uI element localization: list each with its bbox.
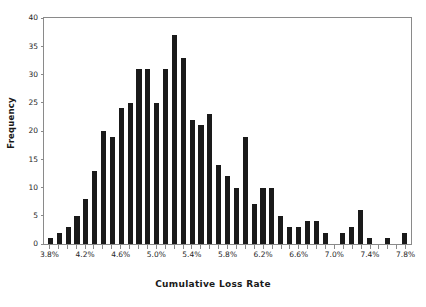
bar-slot (250, 18, 259, 244)
bar-slot (338, 18, 347, 244)
x-axis-tick-mark (58, 245, 59, 249)
histogram-bar (278, 216, 283, 244)
histogram-bar (367, 238, 372, 244)
bar-slot (321, 18, 330, 244)
x-axis-tick-label: 5.4% (182, 251, 201, 259)
x-axis-tick-label: 3.8% (40, 251, 59, 259)
bar-slot (179, 18, 188, 244)
x-axis-tick-mark (120, 245, 121, 249)
y-axis-tick-label: 20 (28, 127, 41, 135)
histogram-bar (163, 69, 168, 244)
bar-slot (161, 18, 170, 244)
x-axis-tick-mark (76, 245, 77, 249)
x-axis-tick-mark (307, 245, 308, 249)
bar-slot (400, 18, 409, 244)
x-axis-tick-label: 5.8% (218, 251, 237, 259)
x-axis-tick-label: 6.2% (254, 251, 273, 259)
bar-slot (205, 18, 214, 244)
x-axis-tick-mark (361, 245, 362, 249)
y-axis-tick-label: 30 (28, 71, 41, 79)
bar-slot (330, 18, 339, 244)
histogram-bar (181, 58, 186, 244)
bar-slot (383, 18, 392, 244)
x-axis-tick-mark (129, 245, 130, 249)
bar-slot (214, 18, 223, 244)
bar-slot (312, 18, 321, 244)
x-axis-tick-mark (183, 245, 184, 249)
x-axis-tick-mark (254, 245, 255, 249)
x-axis-tick-mark (191, 245, 192, 249)
y-axis-tick-label: 25 (28, 99, 41, 107)
histogram-bar (243, 137, 248, 244)
histogram-bar (385, 238, 390, 244)
x-axis-tick-mark (387, 245, 388, 249)
x-axis-tick-mark (93, 245, 94, 249)
bar-slot (64, 18, 73, 244)
histogram-bar (101, 131, 106, 244)
histogram-bar (48, 238, 53, 244)
x-axis-tick-mark (111, 245, 112, 249)
bar-slot (392, 18, 401, 244)
plot-area: 0510152025303540 (43, 17, 412, 245)
bar-slot (126, 18, 135, 244)
histogram-bar (119, 108, 124, 244)
bar-slot (232, 18, 241, 244)
histogram-bar (358, 210, 363, 244)
x-axis-tick-mark (209, 245, 210, 249)
bar-slot (46, 18, 55, 244)
bar-slot (259, 18, 268, 244)
x-axis-title: Cumulative Loss Rate (0, 279, 426, 289)
histogram-bar (92, 171, 97, 244)
x-axis-tick-mark (289, 245, 290, 249)
y-axis-tick-label: 0 (33, 240, 41, 248)
histogram-bar (234, 188, 239, 245)
y-axis-tick-label: 10 (28, 184, 41, 192)
histogram-bar (198, 125, 203, 244)
x-axis-tick-mark (281, 245, 282, 249)
histogram-bar (402, 233, 407, 244)
y-axis-tick-label: 5 (33, 212, 41, 220)
bar-slot (55, 18, 64, 244)
x-axis-tick-mark (102, 245, 103, 249)
bar-slot (143, 18, 152, 244)
x-axis-tick-label: 7.0% (325, 251, 344, 259)
bar-slot (81, 18, 90, 244)
x-axis-tick-mark (174, 245, 175, 249)
histogram-bar (172, 35, 177, 244)
bar-slot (356, 18, 365, 244)
bar-slot (90, 18, 99, 244)
histogram-bar (145, 69, 150, 244)
bar-slot (152, 18, 161, 244)
x-axis-tick-mark (218, 245, 219, 249)
histogram-bar (323, 233, 328, 244)
histogram-bar (269, 188, 274, 245)
histogram-bar (128, 103, 133, 244)
bar-slot (223, 18, 232, 244)
histogram-bar (305, 221, 310, 244)
histogram-bar (314, 221, 319, 244)
histogram-bar (154, 103, 159, 244)
x-axis-tick-mark (263, 245, 264, 249)
x-axis-tick-mark (156, 245, 157, 249)
x-axis-tick-mark (85, 245, 86, 249)
histogram-bar (57, 233, 62, 244)
histogram-bar (190, 120, 195, 244)
bar-slot (374, 18, 383, 244)
bar-slot (170, 18, 179, 244)
x-axis-tick-mark (147, 245, 148, 249)
x-axis-tick-mark (236, 245, 237, 249)
histogram-bar (66, 227, 71, 244)
y-axis-tick-label: 15 (28, 156, 41, 164)
x-axis-tick-mark (334, 245, 335, 249)
x-axis-tick-mark (227, 245, 228, 249)
y-axis-title-text: Frequency (6, 97, 16, 149)
x-axis-tick-mark (316, 245, 317, 249)
x-axis-tick-mark (298, 245, 299, 249)
histogram-bar (349, 227, 354, 244)
x-axis-tick-labels: 3.8%4.2%4.6%5.0%5.4%5.8%6.2%6.6%7.0%7.4%… (43, 251, 412, 265)
bar-slot (197, 18, 206, 244)
x-axis-tick-mark (370, 245, 371, 249)
histogram-bar (110, 137, 115, 244)
x-axis-tick-mark (272, 245, 273, 249)
histogram-bar (287, 227, 292, 244)
